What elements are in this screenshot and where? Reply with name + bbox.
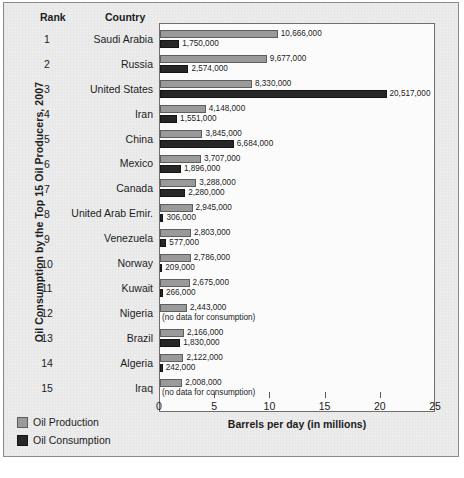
row-label: 1Saudi Arabia: [30, 27, 157, 52]
rank-value: 3: [30, 83, 64, 95]
bar-row: 2,443,000(no data for consumption): [160, 302, 434, 327]
x-axis-tick: [325, 392, 326, 398]
row-label: 13Brazil: [30, 326, 157, 351]
production-bar: [160, 329, 184, 337]
x-axis-tick-label: 5: [211, 400, 217, 412]
bar-row: 2,803,000577,000: [160, 227, 434, 252]
production-bar-label: 10,666,000: [281, 30, 322, 38]
consumption-bar-label: 20,517,000: [390, 90, 431, 98]
consumption-bar-label: 577,000: [169, 239, 199, 247]
bar-row: 9,677,0002,574,000: [160, 53, 434, 78]
consumption-bar-label: 1,551,000: [180, 115, 216, 123]
bar-row: 2,675,000266,000: [160, 277, 434, 302]
no-data-note: (no data for consumption): [162, 314, 255, 322]
rank-value: 12: [30, 307, 64, 319]
production-bar: [160, 179, 196, 187]
production-bar: [160, 55, 267, 63]
production-bar: [160, 304, 187, 312]
x-axis-tick: [269, 392, 270, 398]
country-name: Kuwait: [64, 283, 157, 294]
bar-row: 3,288,0002,280,000: [160, 177, 434, 202]
production-bar-label: 4,148,000: [209, 105, 245, 113]
column-header-country: Country: [105, 11, 145, 23]
production-bar: [160, 155, 201, 163]
rank-value: 5: [30, 133, 64, 145]
row-label: 15Iraq: [30, 376, 157, 401]
bar-row: 4,148,0001,551,000: [160, 103, 434, 128]
bar-row: 10,666,0001,750,000: [160, 28, 434, 53]
production-bar-label: 2,166,000: [187, 329, 223, 337]
production-bar-label: 3,707,000: [204, 155, 240, 163]
production-bar: [160, 379, 182, 387]
rank-value: 15: [30, 382, 64, 394]
rank-value: 13: [30, 332, 64, 344]
x-axis-tick: [380, 392, 381, 398]
row-label: 10Norway: [30, 251, 157, 276]
bar-row: 2,166,0001,830,000: [160, 327, 434, 352]
column-header-rank: Rank: [40, 11, 66, 23]
row-label: 7Canada: [30, 176, 157, 201]
rank-value: 11: [30, 282, 64, 294]
bar-row: 8,330,00020,517,000: [160, 78, 434, 103]
bar-row: 2,122,000242,000: [160, 352, 434, 377]
rank-value: 7: [30, 183, 64, 195]
x-axis-tick-label: 0: [156, 400, 162, 412]
production-bar: [160, 130, 202, 138]
country-name: Nigeria: [64, 308, 157, 319]
country-name: Iran: [64, 109, 157, 120]
row-label: 5China: [30, 127, 157, 152]
consumption-bar: [160, 364, 163, 372]
rank-value: 4: [30, 108, 64, 120]
row-label: 12Nigeria: [30, 301, 157, 326]
production-bar-label: 3,845,000: [205, 130, 241, 138]
rank-value: 9: [30, 233, 64, 245]
production-swatch-icon: [17, 417, 28, 428]
production-bar: [160, 354, 183, 362]
row-label: 14Algeria: [30, 351, 157, 376]
country-name: Canada: [64, 183, 157, 194]
production-bar: [160, 254, 191, 262]
consumption-bar: [160, 264, 162, 272]
consumption-bar: [160, 189, 185, 197]
consumption-bar-label: 2,574,000: [191, 65, 227, 73]
bar-row: 3,707,0001,896,000: [160, 153, 434, 178]
production-bar-label: 2,945,000: [196, 204, 232, 212]
plot-area: 10,666,0001,750,0009,677,0002,574,0008,3…: [159, 23, 435, 412]
production-bar-label: 2,786,000: [194, 254, 230, 262]
row-label: 11Kuwait: [30, 276, 157, 301]
row-label: 2Russia: [30, 52, 157, 77]
x-axis-label: Barrels per day (in millions): [159, 418, 435, 430]
country-name: Algeria: [64, 358, 157, 369]
production-bar-label: 2,675,000: [193, 279, 229, 287]
production-bar-label: 8,330,000: [255, 80, 291, 88]
row-label: 4Iran: [30, 102, 157, 127]
country-name: Venezuela: [64, 233, 157, 244]
production-bar-label: 2,008,000: [185, 379, 221, 387]
consumption-bar-label: 2,280,000: [188, 189, 224, 197]
rank-value: 1: [30, 33, 64, 45]
consumption-bar: [160, 40, 179, 48]
consumption-bar-label: 6,684,000: [237, 140, 273, 148]
bar-row: 3,845,0006,684,000: [160, 128, 434, 153]
consumption-bar: [160, 90, 387, 98]
bar-row: 2,008,000(no data for consumption): [160, 377, 434, 402]
production-bar: [160, 279, 190, 287]
production-bar: [160, 105, 206, 113]
country-name: Iraq: [64, 383, 157, 394]
row-label: 6Mexico: [30, 152, 157, 177]
row-label: 3United States: [30, 77, 157, 102]
legend-label-consumption: Oil Consumption: [33, 434, 111, 446]
consumption-bar: [160, 140, 234, 148]
consumption-bar: [160, 165, 181, 173]
production-bar: [160, 80, 252, 88]
consumption-bar: [160, 65, 188, 73]
consumption-bar-label: 242,000: [166, 364, 196, 372]
bar-row: 2,786,000209,000: [160, 252, 434, 277]
production-bar-label: 2,443,000: [190, 304, 226, 312]
rank-value: 6: [30, 158, 64, 170]
consumption-bar-label: 1,750,000: [182, 40, 218, 48]
x-axis-tick-label: 15: [319, 400, 331, 412]
consumption-bar: [160, 289, 163, 297]
consumption-bar-label: 1,830,000: [183, 339, 219, 347]
country-name: United Arab Emir.: [64, 208, 157, 219]
